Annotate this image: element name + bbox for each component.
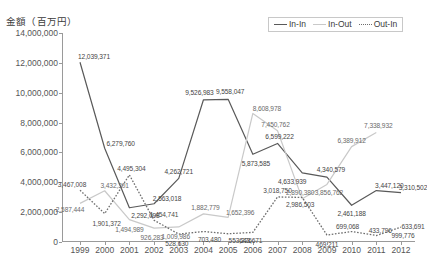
- data-label: 1,009,986: [162, 232, 190, 239]
- x-tick-label: 2004: [194, 245, 213, 255]
- y-tick-label: 10,000,000: [15, 88, 58, 98]
- x-tick-mark: [302, 242, 303, 245]
- x-tick-label: 2002: [145, 245, 164, 255]
- data-label: 4,262,721: [165, 168, 193, 175]
- data-label: 3,467,008: [58, 181, 86, 188]
- data-label: 8,608,978: [253, 105, 281, 112]
- legend-label-in-out: In-Out: [328, 20, 352, 29]
- x-tick-label: 2006: [243, 245, 262, 255]
- data-label: 6,279,760: [106, 140, 134, 147]
- y-tick-label: 2,000,000: [20, 207, 58, 217]
- plot-area: 14,000,00012,000,00010,000,0008,000,0006…: [62, 33, 415, 242]
- legend-swatch-out-in-icon: [359, 24, 372, 25]
- data-label: 4,633,939: [278, 177, 306, 184]
- x-tick-label: 2001: [120, 245, 139, 255]
- legend-label-out-in: Out-In: [374, 20, 398, 29]
- x-tick-mark: [154, 242, 155, 245]
- data-label: 3,018,750: [263, 186, 291, 193]
- x-tick-mark: [129, 242, 130, 245]
- data-label: 2,587,444: [56, 206, 84, 213]
- x-tick-label: 2010: [342, 245, 361, 255]
- data-label: 5,873,585: [242, 160, 270, 167]
- x-tick-label: 2000: [95, 245, 114, 255]
- y-tick-mark: [59, 242, 62, 243]
- data-label: 9,558,047: [216, 88, 244, 95]
- data-label: 2,986,503: [286, 201, 314, 208]
- data-label: 6,599,222: [265, 133, 293, 140]
- data-label: 643,671: [239, 237, 262, 244]
- legend-swatch-in-out-icon: [313, 24, 326, 25]
- data-label: 9,526,983: [185, 88, 213, 95]
- data-label: 1,454,741: [150, 211, 178, 218]
- data-label: 926,283: [140, 234, 163, 241]
- y-tick-label: 12,000,000: [15, 58, 58, 68]
- x-tick-mark: [352, 242, 353, 245]
- x-tick-label: 2005: [219, 245, 238, 255]
- data-label: 3,432,301: [100, 181, 128, 188]
- x-tick-label: 2012: [392, 245, 411, 255]
- legend-swatch-in-in-icon: [274, 24, 287, 25]
- data-label: 999,776: [391, 232, 414, 239]
- data-label: 12,039,371: [78, 53, 110, 60]
- data-label: 2,461,188: [337, 210, 365, 217]
- data-label: 633,691: [401, 222, 424, 229]
- y-tick-label: 8,000,000: [20, 118, 58, 128]
- data-label: 7,338,932: [364, 122, 392, 129]
- data-label: 699,068: [336, 222, 359, 229]
- data-label: 1,901,372: [92, 219, 120, 226]
- data-label: 6,389,912: [337, 136, 365, 143]
- data-label: 4,340,579: [317, 166, 345, 173]
- data-label: 528,630: [165, 240, 188, 247]
- x-tick-label: 2011: [367, 245, 385, 255]
- y-tick-label: 0: [53, 237, 58, 247]
- x-tick-label: 2007: [268, 245, 287, 255]
- x-tick-mark: [278, 242, 279, 245]
- data-label: 469,211: [316, 240, 339, 247]
- y-tick-label: 6,000,000: [20, 147, 58, 157]
- data-label: 703,480: [198, 236, 221, 243]
- x-tick-label: 1999: [71, 245, 90, 255]
- data-label: 1,882,779: [191, 203, 219, 210]
- data-label: 4,495,304: [117, 164, 145, 171]
- chart-legend: In-In In-Out Out-In: [268, 17, 403, 32]
- data-label: 7,450,762: [261, 120, 289, 127]
- y-tick-label: 14,000,000: [15, 28, 58, 38]
- x-tick-mark: [80, 242, 81, 245]
- legend-label-in-in: In-In: [289, 20, 306, 29]
- data-label: 1,652,396: [226, 209, 254, 216]
- y-tick-label: 4,000,000: [20, 177, 58, 187]
- y-axis-title: 金額（百万円）: [6, 14, 77, 28]
- data-label: 2,563,018: [153, 194, 181, 201]
- data-label: 3,310,502: [399, 183, 427, 190]
- x-tick-mark: [376, 242, 377, 245]
- legend-item-out-in[interactable]: Out-In: [359, 20, 398, 29]
- x-tick-mark: [105, 242, 106, 245]
- legend-item-in-out[interactable]: In-Out: [313, 20, 352, 29]
- legend-item-in-in[interactable]: In-In: [274, 20, 306, 29]
- data-label: 433,796: [369, 226, 392, 233]
- x-tick-label: 2008: [293, 245, 312, 255]
- data-label: 3,856,762: [315, 189, 343, 196]
- x-tick-mark: [401, 242, 402, 245]
- data-label: 1,494,989: [115, 225, 143, 232]
